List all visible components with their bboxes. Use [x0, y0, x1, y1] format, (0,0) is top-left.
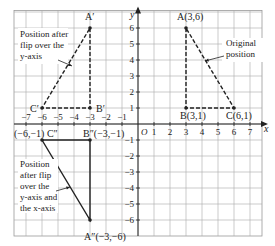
- x-tick-label: 2: [168, 127, 173, 137]
- x-tick-label: 6: [232, 127, 237, 137]
- vertex-point: [88, 106, 92, 110]
- x-tick-label: 3: [184, 127, 189, 137]
- label-B-double-prime: B″(−3,−1): [83, 128, 124, 140]
- x-tick-label: 5: [216, 127, 221, 137]
- y-tick-label: −2: [124, 151, 134, 161]
- label-B: B(3,1): [180, 110, 206, 122]
- svg-text:over the: over the: [20, 181, 49, 191]
- label-C: C(6,1): [226, 110, 252, 122]
- label-C-double-prime: (−6,−1) C″: [14, 128, 58, 140]
- vertex-point: [184, 26, 188, 30]
- svg-text:y-axis and: y-axis and: [20, 192, 58, 202]
- origin-label: O: [141, 127, 148, 137]
- y-tick-label: 6: [130, 23, 135, 33]
- svg-text:y-axis: y-axis: [20, 51, 42, 61]
- x-tick-label: −3: [85, 112, 95, 122]
- x-tick-label: −1: [117, 112, 127, 122]
- x-tick-label: 4: [200, 127, 205, 137]
- y-tick-label: 3: [130, 71, 135, 81]
- y-tick-label: 5: [130, 39, 135, 49]
- svg-text:Position after: Position after: [20, 29, 68, 39]
- y-tick-label: −1: [124, 135, 134, 145]
- y-tick-label: −6: [124, 215, 134, 225]
- label-C-prime: C′: [30, 103, 39, 114]
- y-axis-label: y: [129, 9, 135, 20]
- svg-text:after flip: after flip: [20, 170, 52, 180]
- x-tick-label: 1: [152, 127, 157, 137]
- y-tick-label: −3: [124, 167, 134, 177]
- y-tick-label: 1: [130, 103, 135, 113]
- x-axis-label: x: [263, 123, 269, 134]
- vertex-point: [40, 106, 44, 110]
- note-flip-y: Position after flip over the y-axis: [18, 28, 68, 64]
- svg-text:position: position: [226, 49, 256, 59]
- svg-text:the x-axis: the x-axis: [20, 203, 56, 213]
- coordinate-plane: −7−6−5−4−3−2−11234567654321−1−2−3−4−5−6 …: [0, 0, 275, 246]
- y-tick-label: 2: [130, 87, 135, 97]
- svg-text:Position: Position: [20, 159, 50, 169]
- vertex-point: [88, 218, 92, 222]
- label-A-double-prime: A″(−3,−6): [84, 231, 126, 243]
- note-flip-xy: Position after flip over the y-axis and …: [18, 159, 58, 213]
- label-B-prime: B′: [96, 103, 105, 114]
- svg-text:flip over the: flip over the: [20, 40, 64, 50]
- vertex-point: [88, 26, 92, 30]
- note-original: Original position: [222, 38, 268, 62]
- svg-text:Original: Original: [226, 38, 256, 48]
- x-tick-label: −4: [69, 112, 79, 122]
- y-tick-label: 4: [130, 55, 135, 65]
- y-tick-label: −5: [124, 199, 134, 209]
- x-tick-label: 7: [248, 127, 253, 137]
- label-A-prime: A′: [85, 11, 94, 22]
- x-tick-label: −5: [53, 112, 63, 122]
- y-tick-label: −4: [124, 183, 134, 193]
- label-A: A(3,6): [177, 11, 203, 23]
